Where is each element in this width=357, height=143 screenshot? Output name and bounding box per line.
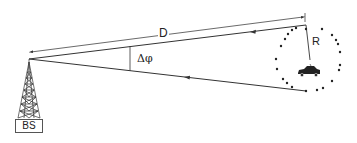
base-station-box: BS — [15, 119, 43, 133]
diagram-canvas — [0, 0, 357, 143]
radius-label: R — [312, 36, 320, 47]
scatterer-ring — [275, 27, 341, 92]
base-station-label: BS — [16, 120, 42, 132]
angle-spread-label: Δφ — [137, 53, 153, 64]
lower-ray — [29, 59, 306, 91]
lattice-tower-icon — [18, 59, 40, 118]
car-icon — [298, 64, 320, 77]
radius-line — [306, 25, 310, 60]
distance-label: D — [158, 27, 169, 39]
